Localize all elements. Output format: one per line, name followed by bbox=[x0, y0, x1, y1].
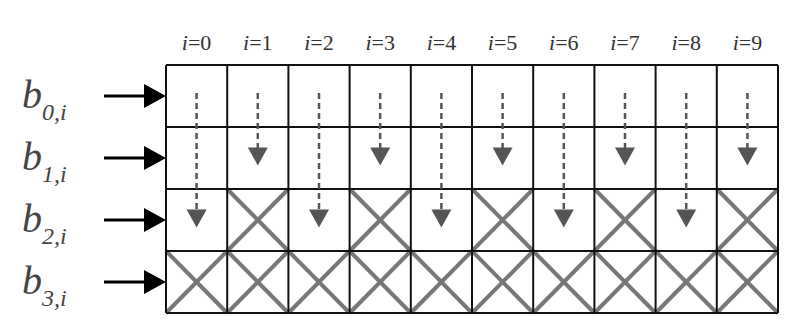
crossed-cell bbox=[717, 189, 778, 251]
crossed-cell bbox=[717, 251, 778, 313]
row-label: b1,i bbox=[22, 134, 67, 187]
column-label: i=6 bbox=[549, 30, 579, 55]
column-label: i=1 bbox=[243, 30, 273, 55]
crossed-cell bbox=[656, 251, 717, 313]
crossed-cell bbox=[594, 251, 655, 313]
column-label: i=9 bbox=[733, 30, 763, 55]
down-arrow-icon bbox=[737, 93, 757, 166]
down-arrow-icon bbox=[248, 93, 268, 166]
crossed-cell bbox=[227, 251, 288, 313]
down-arrow-icon bbox=[309, 93, 329, 228]
row-label: b2,i bbox=[22, 196, 67, 249]
crossed-cell bbox=[533, 251, 594, 313]
column-label: i=7 bbox=[610, 30, 640, 55]
down-arrow-icon bbox=[493, 93, 513, 166]
row-label: b0,i bbox=[22, 72, 67, 125]
crossed-cell bbox=[288, 251, 349, 313]
right-arrow-icon bbox=[104, 270, 166, 294]
column-label: i=8 bbox=[671, 30, 701, 55]
column-label: i=3 bbox=[365, 30, 395, 55]
crossed-cell bbox=[350, 189, 411, 251]
bit-grid-diagram: i=0i=1i=2i=3i=4i=5i=6i=7i=8i=9b0,ib1,ib2… bbox=[0, 0, 806, 325]
crossed-cell bbox=[166, 251, 227, 313]
right-arrow-icon bbox=[104, 146, 166, 170]
column-label: i=5 bbox=[488, 30, 518, 55]
crossed-cell bbox=[472, 189, 533, 251]
column-label: i=4 bbox=[427, 30, 457, 55]
down-arrow-icon bbox=[431, 93, 451, 228]
crossed-cell bbox=[472, 251, 533, 313]
row-label: b3,i bbox=[22, 258, 67, 311]
right-arrow-icon bbox=[104, 208, 166, 232]
crossed-cell bbox=[227, 189, 288, 251]
column-label: i=2 bbox=[304, 30, 334, 55]
crossed-cell bbox=[594, 189, 655, 251]
right-arrow-icon bbox=[104, 84, 166, 108]
down-arrow-icon bbox=[370, 93, 390, 166]
column-label: i=0 bbox=[182, 30, 212, 55]
down-arrow-icon bbox=[615, 93, 635, 166]
down-arrow-icon bbox=[676, 93, 696, 228]
crossed-cell bbox=[411, 251, 472, 313]
down-arrow-icon bbox=[187, 93, 207, 228]
down-arrow-icon bbox=[554, 93, 574, 228]
crossed-cell bbox=[350, 251, 411, 313]
